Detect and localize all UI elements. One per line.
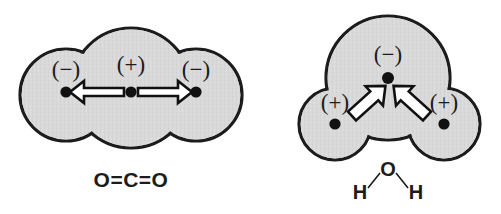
atom-dot-h-right: [438, 118, 449, 129]
atom-dot-h-left: [329, 118, 340, 129]
molecule-dipole-figure: (−) (+) (−) O=C=O: [0, 0, 501, 214]
formula-water-hydrogen-right: H: [409, 181, 423, 203]
charge-label-o-top: (−): [374, 42, 402, 67]
molecule-water: (−) (+) (+) O H H: [0, 0, 501, 214]
charge-label-h-right: (+): [430, 90, 458, 115]
atom-dot-o-top: [382, 72, 394, 84]
charge-label-h-left: (+): [321, 90, 349, 115]
formula-water-oxygen: O: [380, 158, 396, 180]
formula-water-hydrogen-left: H: [353, 181, 367, 203]
